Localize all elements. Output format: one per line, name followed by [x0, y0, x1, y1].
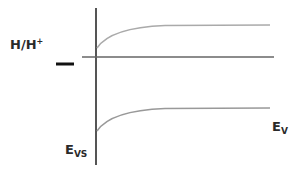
ev-label-text: E: [272, 119, 281, 134]
surface-valence-band-label: EVS: [65, 143, 87, 159]
band-diagram: [0, 0, 301, 172]
evs-label-text: E: [65, 142, 74, 157]
evs-label-subscript: VS: [74, 149, 87, 159]
redox-label-text: H/H: [10, 37, 37, 52]
valence-band-label: EV: [272, 120, 288, 136]
redox-couple-label: H/H+: [10, 38, 43, 51]
valence-band-curve: [97, 108, 270, 131]
conduction-band-curve: [97, 25, 270, 48]
redox-label-superscript: +: [37, 37, 44, 46]
ev-label-subscript: V: [281, 126, 288, 136]
